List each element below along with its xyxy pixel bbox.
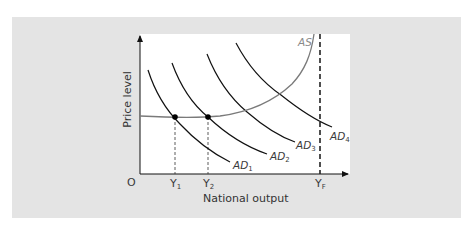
as-label: AS bbox=[298, 37, 312, 48]
ad1-label: AD1 bbox=[233, 160, 253, 173]
origin-label: O bbox=[127, 177, 136, 188]
y-axis-label: Price level bbox=[122, 68, 133, 132]
tick-y2: Y2 bbox=[203, 178, 214, 191]
ad4-label: AD4 bbox=[330, 131, 350, 144]
equilibrium-point-1 bbox=[172, 114, 178, 120]
ad2-label: AD2 bbox=[270, 151, 290, 164]
ad3-label: AD3 bbox=[296, 140, 316, 153]
equilibrium-point-2 bbox=[205, 114, 211, 120]
as-curve bbox=[140, 34, 314, 117]
x-axis-label: National output bbox=[203, 193, 289, 204]
tick-yf: YF bbox=[315, 178, 326, 191]
tick-y1: Y1 bbox=[170, 178, 181, 191]
